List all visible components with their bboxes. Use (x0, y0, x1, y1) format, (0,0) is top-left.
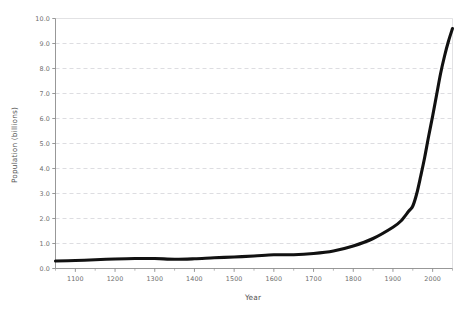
x-tick-label: 1600 (266, 275, 283, 283)
y-tick-label: 4.0 (40, 165, 50, 173)
x-tick-label: 1900 (385, 275, 402, 283)
x-tick-label: 1300 (146, 275, 163, 283)
x-tick-label: 1200 (107, 275, 124, 283)
y-tick-label: 6.0 (40, 115, 50, 123)
y-tick-label: 5.0 (40, 140, 50, 148)
y-tick-label: 8.0 (40, 65, 50, 73)
population-chart: 0.01.02.03.04.05.06.07.08.09.010.0 11001… (0, 0, 471, 316)
x-tick-label: 1100 (67, 275, 84, 283)
x-tick-label: 1400 (186, 275, 203, 283)
x-tick-label: 1800 (345, 275, 362, 283)
y-tick-label: 0.0 (40, 265, 50, 273)
x-tick-label: 2000 (424, 275, 441, 283)
y-tick-label: 7.0 (40, 90, 50, 98)
chart-canvas: 0.01.02.03.04.05.06.07.08.09.010.0 11001… (0, 0, 471, 316)
x-tick-label: 1700 (305, 275, 322, 283)
y-axis-title: Population (billions) (10, 107, 19, 183)
y-tick-label: 9.0 (40, 40, 50, 48)
y-tick-label: 3.0 (40, 190, 50, 198)
x-axis-title: Year (244, 293, 262, 302)
y-tick-label: 1.0 (40, 240, 50, 248)
y-tick-label: 2.0 (40, 215, 50, 223)
x-tick-label: 1500 (226, 275, 243, 283)
y-tick-label: 10.0 (35, 15, 50, 23)
